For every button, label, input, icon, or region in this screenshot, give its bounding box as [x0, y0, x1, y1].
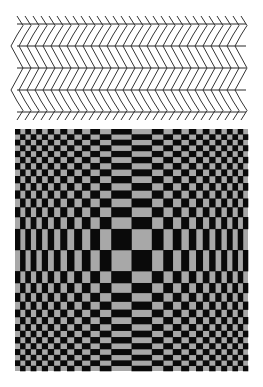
bulging-checkerboard-illusion	[0, 0, 263, 387]
checkerboard-grid	[15, 129, 248, 371]
